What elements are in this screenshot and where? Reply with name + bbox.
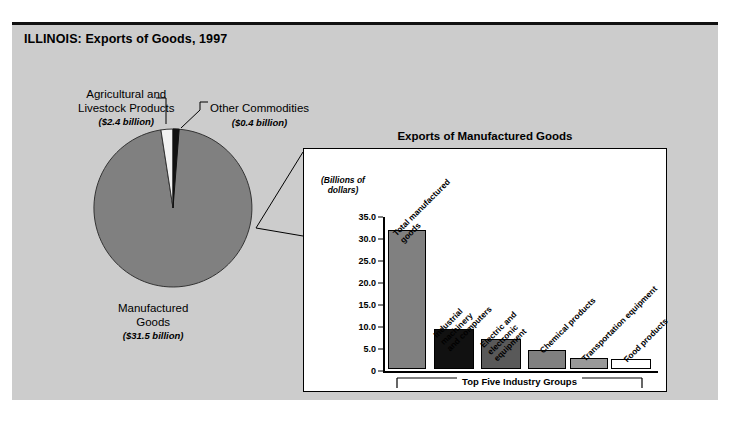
y-tick-mark — [378, 217, 383, 218]
y-tick-label: 25.0 — [336, 256, 376, 266]
y-tick-mark — [378, 261, 383, 262]
y-axis-ticks: 05.010.015.020.025.030.035.0 — [304, 149, 376, 393]
panel-title: Exports of Manufactured Goods — [303, 130, 667, 142]
y-tick-label: 20.0 — [336, 278, 376, 288]
y-tick-mark — [378, 239, 383, 240]
figure: ILLINOIS: Exports of Goods, 1997 Agricul… — [0, 0, 730, 422]
y-tick-mark — [378, 305, 383, 306]
y-tick-mark — [378, 283, 383, 284]
y-tick-mark — [378, 327, 383, 328]
inset-bar-chart-panel: (Billions of dollars) 05.010.015.020.025… — [303, 148, 667, 392]
y-tick-label: 10.0 — [336, 322, 376, 332]
y-tick-label: 0 — [336, 366, 376, 376]
y-tick-label: 5.0 — [336, 344, 376, 354]
y-axis-line — [383, 217, 385, 372]
y-tick-label: 15.0 — [336, 300, 376, 310]
connector-line-top — [256, 152, 303, 228]
bracket-label-text: Top Five Industry Groups — [457, 376, 582, 387]
y-tick-mark — [378, 349, 383, 350]
x-axis-line — [383, 371, 658, 373]
bar-label-food-products: Food products — [622, 317, 670, 365]
y-tick-label: 30.0 — [336, 234, 376, 244]
y-tick-mark — [378, 371, 383, 372]
bracket-label: Top Five Industry Groups — [396, 376, 643, 387]
bar-total-manufactured-goods — [388, 230, 426, 369]
connector-line-bottom — [256, 228, 303, 236]
y-tick-label: 35.0 — [336, 212, 376, 222]
